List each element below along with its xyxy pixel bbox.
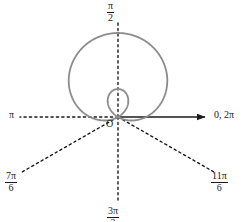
polar-plot-figure: π 2 π 0, 2π 7π 6 11π 6 3π 2 O	[0, 0, 250, 221]
label-zero-two-pi-text: 0, 2π	[214, 110, 234, 121]
label-3pi-over-2-numerator: 3π	[107, 206, 119, 218]
label-zero-two-pi: 0, 2π	[214, 110, 234, 121]
label-11pi-over-6: 11π 6	[211, 171, 228, 193]
label-pi: π	[9, 110, 14, 121]
label-pi-over-2: π 2	[107, 1, 114, 23]
label-origin: O	[106, 119, 113, 130]
label-3pi-over-2: 3π 2	[107, 206, 119, 221]
label-3pi-over-2-denominator: 2	[107, 218, 119, 222]
label-7pi-over-6-denominator: 6	[5, 183, 17, 194]
ray-7pi-over-6	[22, 117, 118, 172]
label-pi-text: π	[9, 110, 14, 121]
ray-11pi-over-6	[118, 117, 214, 172]
label-7pi-over-6: 7π 6	[5, 171, 17, 193]
label-7pi-over-6-numerator: 7π	[5, 171, 17, 183]
label-origin-text: O	[106, 119, 113, 130]
label-pi-over-2-denominator: 2	[107, 13, 114, 24]
label-11pi-over-6-numerator: 11π	[211, 171, 228, 183]
label-11pi-over-6-denominator: 6	[211, 183, 228, 194]
label-pi-over-2-numerator: π	[107, 1, 114, 13]
